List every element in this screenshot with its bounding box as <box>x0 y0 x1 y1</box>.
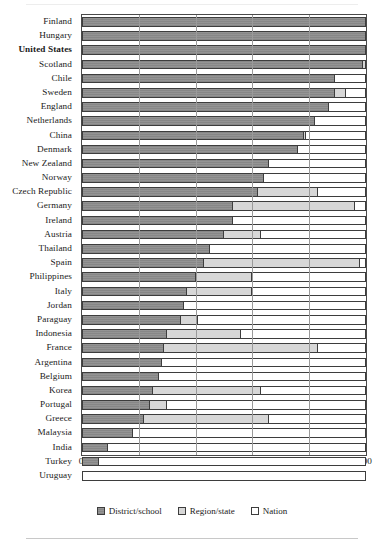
bar-row <box>82 15 366 29</box>
stacked-bar <box>82 116 366 126</box>
category-label: Netherlands <box>0 113 76 127</box>
stacked-bar <box>82 457 366 467</box>
bar-row <box>82 285 366 299</box>
stacked-bar <box>82 358 366 368</box>
bar-segment-district-school <box>82 372 159 382</box>
bar-segment-region-state <box>153 386 261 396</box>
bar-rows <box>82 15 366 455</box>
stacked-bar <box>82 230 366 240</box>
category-label: Indonesia <box>0 326 76 340</box>
stacked-bar <box>82 471 366 481</box>
bar-segment-district-school <box>82 173 264 183</box>
bar-segment-region-state <box>164 343 317 353</box>
bar-segment-district-school <box>82 315 181 325</box>
bar-segment-nation <box>241 329 366 339</box>
bar-segment-region-state <box>181 315 198 325</box>
stacked-bar <box>82 287 366 297</box>
bar-segment-nation <box>318 343 366 353</box>
bar-row <box>82 370 366 384</box>
bar-segment-region-state <box>167 329 241 339</box>
legend-swatch-icon <box>251 507 259 515</box>
bar-row <box>82 100 366 114</box>
category-label: Paraguay <box>0 312 76 326</box>
bar-segment-district-school <box>82 216 233 226</box>
bar-segment-nation <box>298 145 366 155</box>
bar-row <box>82 114 366 128</box>
bar-row <box>82 29 366 43</box>
bar-row <box>82 313 366 327</box>
stacked-bar <box>82 159 366 169</box>
bar-segment-nation <box>167 400 366 410</box>
bar-segment-region-state <box>335 88 346 98</box>
category-label: Philippines <box>0 269 76 283</box>
category-label: United States <box>0 42 76 56</box>
bar-row <box>82 129 366 143</box>
stacked-bar <box>82 31 366 41</box>
bar-segment-district-school <box>82 272 196 282</box>
legend-swatch-icon <box>97 507 105 515</box>
category-label: Spain <box>0 255 76 269</box>
bar-segment-district-school <box>82 244 210 254</box>
bar-row <box>82 270 366 284</box>
bar-row <box>82 43 366 57</box>
category-label: Denmark <box>0 142 76 156</box>
bar-segment-district-school <box>82 287 187 297</box>
stacked-bar <box>82 315 366 325</box>
category-label: Argentina <box>0 355 76 369</box>
category-label: Czech Republic <box>0 184 76 198</box>
bar-segment-district-school <box>82 301 184 311</box>
category-label: Greece <box>0 411 76 425</box>
category-label: Turkey <box>0 454 76 468</box>
stacked-bar <box>82 443 366 453</box>
bar-row <box>82 242 366 256</box>
bar-segment-nation <box>82 471 366 481</box>
bar-row <box>82 72 366 86</box>
bar-segment-region-state <box>204 258 360 268</box>
stacked-bar <box>82 414 366 424</box>
legend-label: Region/state <box>190 506 235 516</box>
stacked-bar <box>82 145 366 155</box>
stacked-bar <box>82 88 366 98</box>
legend-label: Nation <box>263 506 288 516</box>
bar-row <box>82 228 366 242</box>
bar-row <box>82 341 366 355</box>
category-label: India <box>0 440 76 454</box>
bar-segment-nation <box>360 258 366 268</box>
legend-item-district[interactable]: District/school <box>97 506 162 516</box>
category-label: China <box>0 128 76 142</box>
bar-row <box>82 426 366 440</box>
bar-segment-nation <box>261 230 366 240</box>
bar-segment-district-school <box>82 358 162 368</box>
bar-segment-district-school <box>82 159 269 169</box>
legend-swatch-icon <box>178 507 186 515</box>
bar-segment-nation <box>184 301 366 311</box>
bar-segment-district-school <box>82 131 304 141</box>
legend-item-region[interactable]: Region/state <box>178 506 235 516</box>
bar-row <box>82 171 366 185</box>
bar-row <box>82 256 366 270</box>
category-label: Austria <box>0 227 76 241</box>
category-label: Finland <box>0 14 76 28</box>
bar-segment-district-school <box>82 88 335 98</box>
category-label: France <box>0 340 76 354</box>
bar-segment-district-school <box>82 201 233 211</box>
chart-legend: District/schoolRegion/stateNation <box>0 506 384 516</box>
bar-row <box>82 214 366 228</box>
bar-segment-region-state <box>187 287 252 297</box>
bar-segment-district-school <box>82 45 366 55</box>
category-label: Italy <box>0 284 76 298</box>
bar-segment-nation <box>315 116 366 126</box>
bar-segment-nation <box>162 358 366 368</box>
legend-label: District/school <box>109 506 162 516</box>
category-label: Chile <box>0 71 76 85</box>
bar-segment-district-school <box>82 60 363 70</box>
bar-segment-region-state <box>196 272 253 282</box>
bar-segment-nation <box>306 131 366 141</box>
category-label: Norway <box>0 170 76 184</box>
category-label: England <box>0 99 76 113</box>
bar-segment-nation <box>269 159 366 169</box>
bar-segment-nation <box>233 216 366 226</box>
bar-segment-district-school <box>82 74 335 84</box>
bar-segment-nation <box>318 187 366 197</box>
legend-item-nation[interactable]: Nation <box>251 506 288 516</box>
